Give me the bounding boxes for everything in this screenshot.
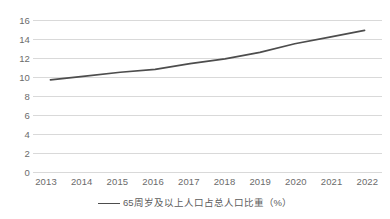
y-tick-label: 12 [4, 54, 30, 64]
x-tick-label: 2017 [178, 177, 200, 187]
chart-legend: 65周岁及以上人口占总人口比重（%） [0, 194, 390, 212]
y-tick-label: 8 [4, 92, 30, 102]
x-tick-label: 2021 [321, 177, 343, 187]
legend-line-swatch [98, 203, 120, 204]
x-tick-label: 2013 [35, 177, 57, 187]
x-tick-label: 2019 [249, 177, 271, 187]
x-axis: 2013 2014 2015 2016 2017 2018 2019 2020 … [33, 177, 382, 191]
plot-area [33, 20, 382, 172]
y-tick-label: 14 [4, 35, 30, 45]
line-chart: 16 14 12 10 8 6 4 2 0 2013 2014 2015 201… [0, 0, 390, 219]
x-tick-label: 2015 [107, 177, 129, 187]
gridline [33, 77, 382, 78]
x-tick-label: 2018 [214, 177, 236, 187]
gridline [33, 153, 382, 154]
gridline [33, 134, 382, 135]
x-tick-label: 2016 [142, 177, 164, 187]
gridline [33, 96, 382, 97]
legend-label: 65周岁及以上人口占总人口比重（%） [123, 198, 292, 208]
y-tick-label: 6 [4, 111, 30, 121]
y-tick-label: 10 [4, 73, 30, 83]
x-tick-label: 2020 [285, 177, 307, 187]
y-tick-label: 2 [4, 149, 30, 159]
gridline [33, 115, 382, 116]
gridline [33, 58, 382, 59]
y-tick-label: 0 [4, 168, 30, 178]
y-axis: 16 14 12 10 8 6 4 2 0 [0, 0, 30, 219]
x-tick-label: 2014 [71, 177, 93, 187]
y-tick-label: 4 [4, 130, 30, 140]
gridline [33, 39, 382, 40]
y-tick-label: 16 [4, 16, 30, 26]
x-tick-label: 2022 [357, 177, 379, 187]
gridline [33, 172, 382, 173]
gridline [33, 20, 382, 21]
